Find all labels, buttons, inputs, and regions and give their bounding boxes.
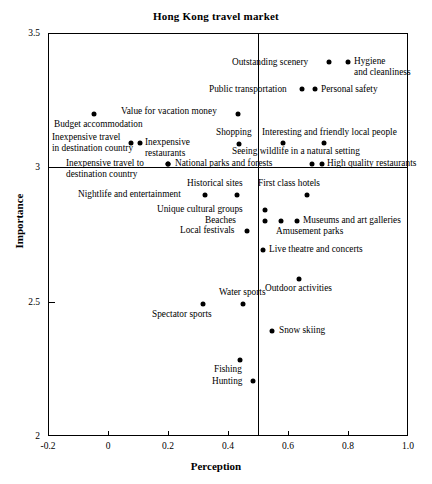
- data-point: [203, 193, 208, 198]
- data-point: [320, 162, 325, 167]
- data-point-label: Public transportation: [209, 84, 287, 95]
- data-point-label: Nightlife and entertainment: [78, 189, 181, 200]
- data-point: [241, 302, 246, 307]
- data-point-label: Seeing wildlife in a natural setting: [232, 146, 360, 157]
- data-point-label: Unique cultural groups: [157, 204, 243, 215]
- data-point: [236, 112, 241, 117]
- data-point: [270, 329, 275, 334]
- x-tick-label: 0.2: [148, 441, 188, 451]
- data-point: [166, 162, 171, 167]
- data-point-label: Interesting and friendly local people: [262, 127, 397, 138]
- data-point-label: Hygiene and cleanliness: [354, 56, 411, 77]
- data-point: [322, 141, 327, 146]
- x-tick-mark: [168, 431, 169, 436]
- x-axis-label: Perception: [0, 460, 432, 472]
- data-point: [261, 248, 266, 253]
- y-tick-label: 3: [14, 162, 40, 172]
- data-point-label: Museums and art galleries: [303, 215, 401, 226]
- data-point-label: Outdoor activities: [265, 283, 332, 294]
- data-point: [235, 193, 240, 198]
- data-point-label: Water sports: [219, 287, 266, 298]
- data-point: [346, 60, 351, 65]
- y-tick-label: 2.5: [14, 297, 40, 307]
- data-point: [300, 87, 305, 92]
- data-point: [305, 193, 310, 198]
- y-tick-label: 2: [14, 431, 40, 441]
- x-tick-label: 0.6: [268, 441, 308, 451]
- y-tick-mark: [49, 302, 55, 303]
- data-point: [310, 162, 315, 167]
- data-point-label: Hunting: [212, 376, 242, 387]
- data-point-label: Budget accommodation: [54, 119, 143, 130]
- data-point: [297, 277, 302, 282]
- data-point: [201, 302, 206, 307]
- data-point: [238, 358, 243, 363]
- data-point-label: Spectator sports: [152, 309, 212, 320]
- data-point-label: High quality restaurants: [327, 158, 416, 169]
- data-point-label: Snow skiing: [279, 325, 325, 336]
- x-tick-label: 1.0: [388, 441, 428, 451]
- data-point-label: Inexpensive restaurants: [145, 137, 190, 158]
- data-point: [245, 229, 250, 234]
- x-tick-label: 0.4: [208, 441, 248, 451]
- data-point: [295, 219, 300, 224]
- y-axis-label: Importance: [13, 176, 25, 266]
- data-point-label: Beaches: [205, 215, 236, 226]
- data-point: [279, 219, 284, 224]
- data-point-label: National parks and forests: [175, 158, 272, 169]
- chart-figure: Hong Kong travel market 3.532.52-0.200.2…: [0, 0, 432, 484]
- y-tick-mark: [49, 167, 55, 168]
- data-point-label: Inexpensive travel in destination countr…: [52, 132, 133, 153]
- data-point-label: Amusement parks: [276, 226, 343, 237]
- y-tick-label: 3.5: [14, 28, 40, 38]
- data-point-label: Shopping: [216, 127, 252, 138]
- x-tick-mark: [108, 431, 109, 436]
- data-point-label: Value for vacation money: [121, 106, 217, 117]
- x-tick-label: 0.8: [328, 441, 368, 451]
- data-point-label: Personal safety: [321, 84, 378, 95]
- x-tick-mark: [288, 431, 289, 436]
- data-point-label: First class hotels: [258, 178, 320, 189]
- data-point: [327, 60, 332, 65]
- data-point-label: Inexpensive travel to destination countr…: [66, 158, 144, 179]
- x-tick-label: 0: [88, 441, 128, 451]
- data-point-label: Live theatre and concerts: [269, 244, 363, 255]
- data-point-label: Outstanding scenery: [232, 57, 308, 68]
- data-point: [263, 208, 268, 213]
- data-point: [251, 379, 256, 384]
- x-tick-mark: [228, 431, 229, 436]
- data-point-label: Local festivals: [180, 225, 234, 236]
- data-point-label: Historical sites: [187, 178, 243, 189]
- data-point: [313, 87, 318, 92]
- data-point: [92, 112, 97, 117]
- chart-title: Hong Kong travel market: [0, 10, 432, 22]
- data-point-label: Fishing: [214, 364, 242, 375]
- x-tick-mark: [348, 431, 349, 436]
- x-tick-label: -0.2: [28, 441, 68, 451]
- data-point: [263, 219, 268, 224]
- data-point: [281, 141, 286, 146]
- data-point: [138, 141, 143, 146]
